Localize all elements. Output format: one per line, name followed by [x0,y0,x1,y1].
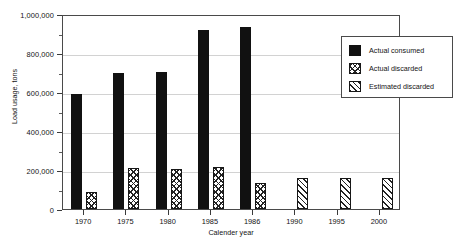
x-tick-label: 1986 [244,217,260,226]
x-tick-label: 1995 [328,217,344,226]
x-tick-label: 1970 [75,217,91,226]
x-tick-label: 1980 [159,217,175,226]
bar-actual-discarded [171,169,182,209]
bar-actual-discarded [128,168,139,209]
bar-estimated-discarded [382,178,393,209]
x-tick-label: 1990 [286,217,302,226]
bar-actual-discarded [255,183,266,209]
x-tick [294,210,295,215]
y-tick-label: 600,000 [27,89,54,98]
x-tick-label: 1985 [202,217,218,226]
y-tick-label: 1,000,000 [20,11,54,20]
legend-label: Actual consumed [369,46,424,55]
bar-actual-consumed [156,72,167,209]
legend-swatch-actual-consumed [349,45,361,56]
y-tick-label: 400,000 [27,128,54,137]
bar-estimated-discarded [297,178,308,209]
x-tick [252,210,253,215]
x-tick [125,210,126,215]
plot-area: Actual consumedActual discardedEstimated… [62,15,400,210]
x-tick [210,210,211,215]
x-axis-title: Calender year [62,228,400,237]
bar-actual-consumed [198,30,209,209]
y-tick-label: 200,000 [27,167,54,176]
legend-item: Actual discarded [349,63,422,74]
bar-estimated-discarded [340,178,351,209]
legend-item: Estimated discarded [349,81,434,92]
bar-actual-consumed [240,27,251,209]
legend: Actual consumedActual discardedEstimated… [341,36,453,98]
y-tick-label: 0 [50,206,54,215]
bar-actual-consumed [71,94,82,209]
bar-actual-discarded [86,192,97,209]
x-tick-label: 2000 [371,217,387,226]
x-tick [379,210,380,215]
bar-actual-consumed [113,73,124,209]
legend-swatch-actual-discarded [349,63,361,74]
x-tick [337,210,338,215]
x-tick [168,210,169,215]
legend-item: Actual consumed [349,45,424,56]
y-tick-label: 800,000 [27,50,54,59]
legend-swatch-estimated-discarded [349,81,361,92]
y-axis: 0200,000400,000600,000800,0001,000,000 [0,0,62,196]
bar-actual-discarded [213,167,224,209]
legend-label: Actual discarded [369,64,422,73]
x-tick [83,210,84,215]
legend-label: Estimated discarded [369,82,434,91]
x-tick-label: 1975 [117,217,133,226]
